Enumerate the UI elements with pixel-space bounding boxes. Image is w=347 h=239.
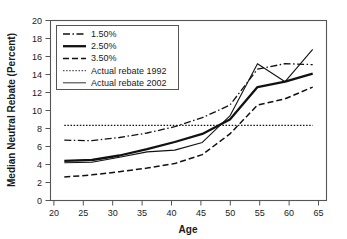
legend-label-2: 3.50%: [91, 53, 117, 63]
x-tick-label: 45: [196, 208, 206, 218]
line-chart: 0 2 4 6 8 10 12 14 16 18 20 20 25 30 35 …: [0, 0, 347, 239]
x-tick-label: 55: [255, 208, 265, 218]
legend-label-4: Actual rebate 2002: [91, 78, 167, 88]
y-tick-label: 2: [37, 178, 42, 188]
y-tick-label: 20: [32, 16, 42, 26]
y-tick-label: 4: [37, 160, 42, 170]
legend-label-1: 2.50%: [91, 41, 117, 51]
y-tick-label: 14: [32, 70, 42, 80]
chart-container: 0 2 4 6 8 10 12 14 16 18 20 20 25 30 35 …: [0, 0, 347, 239]
x-tick-label: 40: [166, 208, 176, 218]
y-axis-title: Median Neutral Rebate (Percent): [6, 33, 17, 187]
x-tick-label: 35: [137, 208, 147, 218]
y-tick-label: 10: [32, 106, 42, 116]
legend: 1.50%2.50%3.50%Actual rebate 1992Actual …: [57, 26, 179, 90]
y-tick-label: 0: [37, 196, 42, 206]
x-tick-label: 25: [78, 208, 88, 218]
x-tick-label: 30: [108, 208, 118, 218]
legend-label-3: Actual rebate 1992: [91, 66, 167, 76]
legend-label-0: 1.50%: [91, 29, 117, 39]
x-tick-label: 50: [225, 208, 235, 218]
x-tick-label: 20: [49, 208, 59, 218]
y-tick-label: 18: [32, 34, 42, 44]
x-axis-title: Age: [179, 224, 198, 235]
x-tick-label: 65: [313, 208, 323, 218]
y-tick-label: 16: [32, 52, 42, 62]
y-tick-label: 12: [32, 88, 42, 98]
x-tick-label: 60: [284, 208, 294, 218]
y-tick-label: 8: [37, 124, 42, 134]
y-tick-label: 6: [37, 142, 42, 152]
